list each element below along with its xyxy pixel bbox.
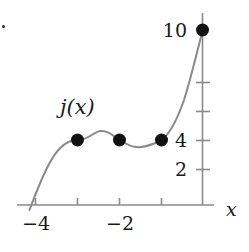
- data-point-1: [71, 134, 84, 147]
- y-tick-label-4: 4: [167, 131, 187, 150]
- function-graph-figure: j(x) 10 4 2 −4 −2 x: [0, 0, 249, 252]
- curve-label-jx: j(x): [60, 97, 95, 118]
- x-tick-label--2: −2: [106, 214, 134, 233]
- function-curve: [30, 31, 203, 210]
- x-tick-label--4: −4: [22, 214, 50, 233]
- y-tick-label-10: 10: [155, 21, 187, 40]
- x-axis-ticks: [36, 198, 162, 205]
- data-point-2: [113, 134, 126, 147]
- y-tick-label-2: 2: [167, 160, 187, 179]
- data-point-4: [196, 24, 209, 37]
- x-axis-label: x: [226, 200, 237, 219]
